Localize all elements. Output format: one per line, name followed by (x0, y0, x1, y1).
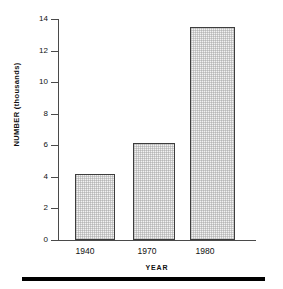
ytick-label-6-wrap: 6 (22, 141, 48, 149)
ytick-label-12-wrap: 12 (22, 47, 48, 55)
ytick-label-4: 4 (26, 173, 48, 181)
bar-1970 (133, 143, 175, 240)
ytick-label-6: 6 (26, 141, 48, 149)
ytick-label-14: 14 (26, 15, 48, 23)
ytick-label-10: 10 (26, 78, 48, 86)
xtick-label-1980: 1980 (175, 246, 235, 256)
x-axis-line (58, 240, 256, 241)
bottom-rule (22, 277, 265, 281)
ytick-label-14-wrap: 14 (22, 15, 48, 23)
ytick-label-0: 0 (26, 236, 48, 244)
bar-1940 (75, 174, 115, 240)
ytick-label-4-wrap: 4 (22, 173, 48, 181)
ytick-label-10-wrap: 10 (22, 78, 48, 86)
ytick-label-2-wrap: 2 (22, 204, 48, 212)
xtick-label-1970: 1970 (117, 246, 177, 256)
ytick-label-2: 2 (26, 204, 48, 212)
x-axis-title: YEAR (58, 264, 256, 271)
ytick-label-8-wrap: 8 (22, 110, 48, 118)
xtick-label-1940: 1940 (55, 246, 115, 256)
bar-1980 (190, 27, 235, 240)
ytick-label-0-wrap: 0 (22, 236, 48, 244)
plot-area (58, 19, 255, 240)
ytick-label-8: 8 (26, 110, 48, 118)
bar-chart-figure: 14 12 10 8 6 4 2 0 1940 1970 1980 YEAR N… (0, 0, 283, 289)
ytick-label-12: 12 (26, 47, 48, 55)
y-axis-title: NUMBER (thousands) (12, 40, 21, 170)
